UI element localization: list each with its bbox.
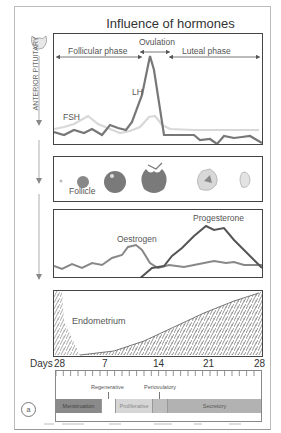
day-tick-21: 21 xyxy=(203,358,214,369)
day-tick-28-start: 28 xyxy=(54,358,65,369)
fsh-line xyxy=(54,116,259,133)
regenerative-label: Regenerative xyxy=(91,384,124,390)
endometrium-label: Endometrium xyxy=(72,316,126,326)
follicular-phase-label: Follicular phase xyxy=(68,46,128,56)
caption-remnant xyxy=(14,411,270,433)
follicle-label: Follicle xyxy=(69,186,95,196)
progesterone-label: Progesterone xyxy=(193,213,244,223)
ovulation-label: Ovulation xyxy=(139,37,175,47)
day-tick-7: 7 xyxy=(102,358,108,369)
arrow-down-icon xyxy=(36,274,42,280)
fsh-label: FSH xyxy=(63,112,80,122)
pituitary-hormone-panel: Follicular phase Ovulation Luteal phase … xyxy=(53,33,263,145)
endometrium-panel: Endometrium xyxy=(53,290,263,357)
figure-title: Influence of hormones xyxy=(30,16,281,31)
luteal-phase-label: Luteal phase xyxy=(182,46,231,56)
lh-label: LH xyxy=(132,87,143,97)
side-label: ANTERIOR PITUITARY xyxy=(32,24,39,124)
days-label: Days xyxy=(30,358,53,369)
day-tick-28-end: 28 xyxy=(254,358,265,369)
oestrogen-label: Oestrogen xyxy=(117,234,157,244)
day-tick-14: 14 xyxy=(153,358,164,369)
ovarian-hormone-panel: Oestrogen Progesterone xyxy=(53,209,263,278)
follicle-panel: Follicle xyxy=(53,156,263,202)
oestrogen-line xyxy=(54,245,262,269)
periovulatory-label: Periovulatory xyxy=(144,384,176,390)
arrow-down-icon xyxy=(36,178,42,184)
